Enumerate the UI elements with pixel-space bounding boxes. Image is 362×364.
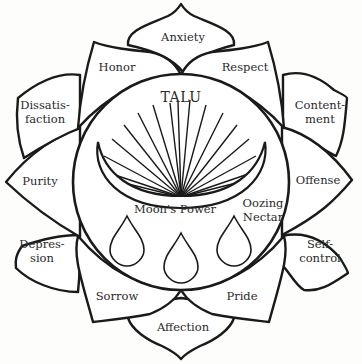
petal-label-depression: Depres- sion: [19, 237, 64, 265]
moon-power-label: Moon's Power: [134, 202, 216, 216]
petal-label-dissatisfaction: Dissatis- faction: [20, 98, 70, 126]
petal-label-respect: Respect: [222, 60, 269, 74]
oozing-nectar-label: Oozing Nectar: [243, 196, 284, 224]
lotus-diagram: TALU Moon's Power Oozing Nectar Anxiety …: [0, 0, 362, 364]
petal-label-purity: Purity: [22, 174, 57, 188]
center-title: TALU: [160, 90, 201, 104]
petal-label-sorrow: Sorrow: [96, 289, 139, 303]
petal-label-contentment: Content- ment: [295, 98, 345, 126]
petal-label-honor: Honor: [99, 60, 136, 74]
petal-label-pride: Pride: [226, 289, 257, 303]
petal-label-self-control: Self- control: [299, 237, 341, 265]
petal-label-anxiety: Anxiety: [161, 30, 205, 44]
petal-label-offense: Offense: [296, 173, 341, 187]
petal-label-affection: Affection: [157, 320, 209, 334]
